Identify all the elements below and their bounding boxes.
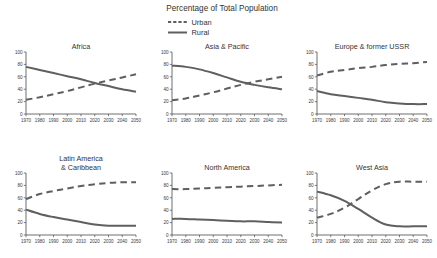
panel-axes [26,52,136,114]
y-tick-label: 20 [163,220,169,225]
x-tick-label: 2000 [208,239,219,244]
x-tick-label: 2050 [422,239,433,244]
x-tick-label: 2010 [367,239,378,244]
y-tick-label: 60 [17,75,23,80]
y-tick-label: 100 [161,171,169,176]
x-tick-label: 2050 [131,239,142,244]
x-tick-label: 1990 [339,239,350,244]
y-tick-label: 80 [163,62,169,67]
panel-north-america: North America020406080100197019801990200… [161,163,288,244]
x-tick-label: 1990 [339,118,350,123]
x-tick-label: 2020 [236,239,247,244]
x-tick-label: 2000 [62,118,73,123]
x-tick-label: 2000 [353,239,364,244]
x-tick-label: 2000 [208,118,219,123]
x-tick-label: 1990 [194,239,205,244]
y-tick-label: 0 [20,233,23,238]
y-tick-label: 60 [17,196,23,201]
x-tick-label: 2020 [236,118,247,123]
series-line-urban [26,74,136,99]
panel-latin-america-caribbean: Latin America& Caribbean0204060801001970… [15,154,142,244]
series-line-rural [26,210,136,226]
x-tick-label: 2050 [422,118,433,123]
x-tick-label: 2040 [263,239,274,244]
x-tick-label: 1970 [21,239,32,244]
x-tick-label: 2010 [367,118,378,123]
x-tick-label: 1970 [312,118,323,123]
y-tick-label: 100 [15,50,23,55]
series-line-rural [172,66,282,90]
x-tick-label: 2020 [381,118,392,123]
x-tick-label: 1980 [181,118,192,123]
y-tick-label: 80 [17,62,23,67]
panel-title: Asia & Pacific [205,42,249,51]
panel-title: Europe & former USSR [335,42,410,51]
x-tick-label: 2040 [117,118,128,123]
panel-africa: Africa0204060801001970198019902000201020… [15,42,142,123]
x-tick-label: 2050 [131,118,142,123]
y-tick-label: 40 [17,208,23,213]
series-line-urban [172,185,282,189]
x-tick-label: 2020 [90,118,101,123]
series-line-urban [26,182,136,199]
y-tick-label: 100 [306,171,314,176]
panel-grid: Africa0204060801001970198019902000201020… [15,42,433,244]
x-tick-label: 1980 [35,118,46,123]
series-line-rural [317,91,427,104]
y-tick-label: 20 [308,220,314,225]
y-tick-label: 20 [308,99,314,104]
x-tick-label: 1970 [21,118,32,123]
series-line-urban [172,77,282,101]
small-multiples-chart: Percentage of Total Population UrbanRura… [0,0,437,258]
x-tick-label: 2040 [263,118,274,123]
y-tick-label: 0 [20,112,23,117]
y-tick-label: 80 [308,62,314,67]
x-tick-label: 2000 [353,118,364,123]
y-tick-label: 80 [308,183,314,188]
y-tick-label: 60 [308,196,314,201]
x-tick-label: 2030 [394,118,405,123]
y-tick-label: 40 [308,208,314,213]
x-tick-label: 2020 [90,239,101,244]
x-tick-label: 1980 [326,239,337,244]
x-tick-label: 2030 [249,239,260,244]
y-tick-label: 20 [163,99,169,104]
y-tick-label: 40 [308,87,314,92]
x-tick-label: 1980 [181,239,192,244]
series-line-rural [172,219,282,223]
panel-europe-former-ussr: Europe & former USSR02040608010019701980… [306,42,433,123]
x-tick-label: 2030 [103,239,114,244]
x-tick-label: 1990 [48,118,59,123]
series-line-urban [317,62,427,76]
y-tick-label: 100 [161,50,169,55]
x-tick-label: 2010 [76,239,87,244]
y-tick-label: 40 [17,87,23,92]
panel-title: Africa [72,42,90,51]
x-tick-label: 2010 [76,118,87,123]
panel-west-asia: West Asia0204060801001970198019902000201… [306,163,433,244]
legend-label-urban: Urban [192,18,212,27]
x-tick-label: 1970 [167,118,178,123]
x-tick-label: 2030 [103,118,114,123]
chart-title: Percentage of Total Population [166,4,278,13]
y-tick-label: 100 [15,171,23,176]
x-tick-label: 2040 [408,118,419,123]
x-tick-label: 2030 [249,118,260,123]
y-tick-label: 0 [166,233,169,238]
legend-label-rural: Rural [192,28,210,37]
panel-axes [172,173,282,235]
panel-title: & Caribbean [61,163,101,172]
x-tick-label: 1980 [35,239,46,244]
x-tick-label: 1970 [312,239,323,244]
x-tick-label: 2040 [117,239,128,244]
y-tick-label: 80 [17,183,23,188]
y-tick-label: 20 [17,99,23,104]
x-tick-label: 2010 [222,118,233,123]
x-tick-label: 2000 [62,239,73,244]
panel-title: West Asia [356,163,388,172]
chart-legend: UrbanRural [168,18,212,37]
x-tick-label: 1990 [194,118,205,123]
y-tick-label: 0 [311,233,314,238]
x-tick-label: 1990 [48,239,59,244]
x-tick-label: 2040 [408,239,419,244]
